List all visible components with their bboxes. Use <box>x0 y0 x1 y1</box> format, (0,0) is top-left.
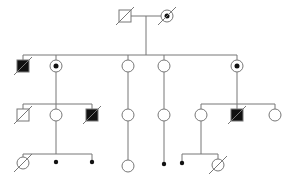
individual-III-1 <box>14 106 32 124</box>
individual-III-6 <box>195 109 207 121</box>
female-circle-icon <box>122 109 134 121</box>
offspring-dot-IV-2 <box>54 160 58 164</box>
offspring-dot-IV-5 <box>162 162 166 166</box>
female-circle-icon <box>195 109 207 121</box>
dot-icon <box>180 161 184 165</box>
individual-III-2 <box>50 109 62 121</box>
individual-II-3 <box>122 60 134 72</box>
individual-III-8 <box>269 109 281 121</box>
female-circle-icon <box>269 109 281 121</box>
individual-II-5 <box>231 60 243 72</box>
female-circle-icon <box>122 60 134 72</box>
individual-IV-4 <box>122 160 134 172</box>
individual-II-1 <box>14 57 32 75</box>
individual-IV-1 <box>14 154 32 172</box>
female-circle-icon <box>158 109 170 121</box>
individual-II-4 <box>158 60 170 72</box>
individual-III-7 <box>228 106 246 124</box>
individual-II-2 <box>50 60 62 72</box>
offspring-dot-IV-3 <box>90 160 94 164</box>
individual-IV-7 <box>209 156 227 174</box>
relationship-lines <box>23 16 275 162</box>
dot-icon <box>90 160 94 164</box>
individual-I-2 <box>158 7 176 25</box>
pedigree-diagram <box>0 0 293 178</box>
individuals <box>14 7 281 174</box>
dot-icon <box>54 160 58 164</box>
individual-I-1 <box>116 7 134 25</box>
carrier-dot-icon <box>54 64 59 69</box>
individual-III-4 <box>122 109 134 121</box>
offspring-dot-IV-6 <box>180 161 184 165</box>
individual-III-5 <box>158 109 170 121</box>
female-circle-icon <box>50 109 62 121</box>
female-circle-icon <box>158 60 170 72</box>
individual-III-3 <box>83 106 101 124</box>
dot-icon <box>162 162 166 166</box>
female-circle-icon <box>122 160 134 172</box>
carrier-dot-icon <box>235 64 240 69</box>
